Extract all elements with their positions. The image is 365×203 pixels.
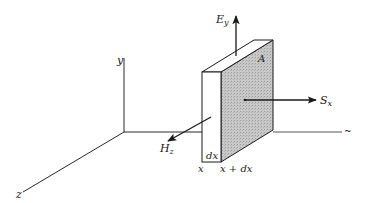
axes xyxy=(23,58,342,192)
e-field-subscript: y xyxy=(224,18,229,27)
h-field-symbol: H xyxy=(160,142,170,155)
h-field-label: Hz xyxy=(160,143,174,156)
x-axis-end-mark: ~ xyxy=(344,127,352,136)
z-axis-label: z xyxy=(16,189,22,200)
right-position-label: x + dx xyxy=(220,164,252,174)
slab-front-face xyxy=(202,72,221,162)
area-label: A xyxy=(258,54,265,64)
poynting-symbol: S xyxy=(320,94,328,107)
z-axis xyxy=(23,132,124,192)
e-field-label: Ey xyxy=(216,14,229,27)
poynting-subscript: x xyxy=(328,99,333,108)
e-field-symbol: E xyxy=(216,13,224,26)
poynting-origin-dot xyxy=(244,99,247,102)
diagram-canvas xyxy=(0,0,365,203)
h-field-subscript: z xyxy=(170,147,174,156)
left-position-label: x xyxy=(198,164,204,174)
diagram: y z ~ Ey Sx Hz A dx x x + dx xyxy=(0,0,365,203)
thickness-label: dx xyxy=(206,151,218,161)
poynting-label: Sx xyxy=(320,95,332,108)
y-axis-label: y xyxy=(117,55,123,66)
